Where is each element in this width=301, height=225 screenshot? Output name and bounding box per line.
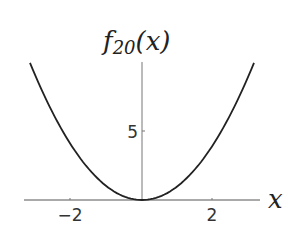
x-axis-label: x xyxy=(268,184,283,214)
x-tick-label-2: 2 xyxy=(207,205,218,225)
y-axis-label: f20(x) xyxy=(101,26,170,58)
chart: −2 2 5 x f20(x) xyxy=(0,0,301,225)
y-tick-label-5: 5 xyxy=(127,122,138,142)
x-tick-label-neg2: −2 xyxy=(57,205,82,225)
